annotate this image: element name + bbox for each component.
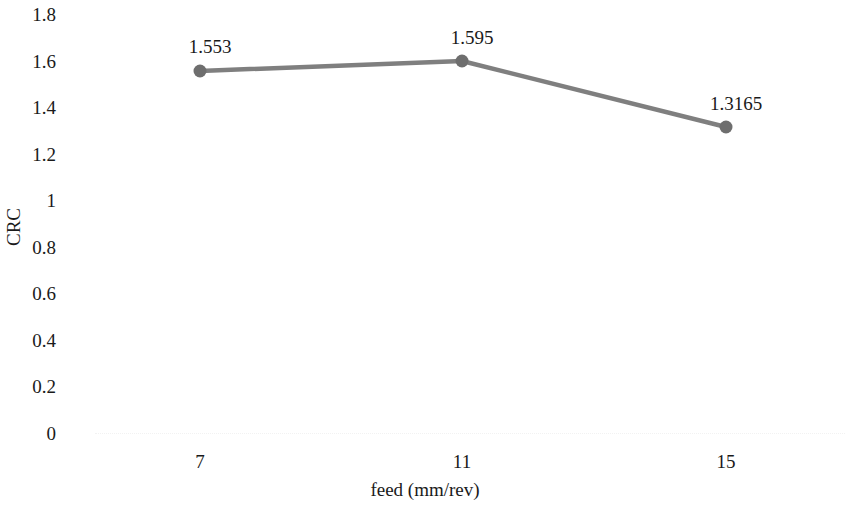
data-point-marker (456, 55, 469, 68)
x-axis-title: feed (mm/rev) (0, 479, 850, 500)
data-point-label: 1.595 (392, 28, 552, 47)
series-line-crc (0, 0, 850, 505)
data-point-label: 1.3165 (656, 94, 816, 113)
x-tick-label: 15 (666, 452, 786, 472)
data-point-marker (194, 65, 207, 78)
data-point-marker (720, 121, 733, 134)
x-tick-label: 7 (140, 452, 260, 472)
crc-vs-feed-line-chart: 1.8 1.6 1.4 1.2 1 0.8 0.6 0.4 0.2 0 CRC … (0, 0, 850, 505)
x-tick-label: 11 (402, 452, 522, 472)
series-polyline (200, 61, 726, 127)
data-point-label: 1.553 (130, 37, 290, 56)
